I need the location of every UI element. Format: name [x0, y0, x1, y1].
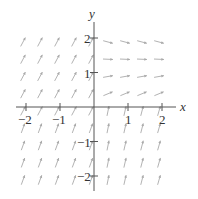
y-tick-label: −2 [77, 169, 91, 184]
x-tick-label: −1 [52, 112, 66, 127]
vector-arrows [21, 38, 164, 185]
x-tick-label: −2 [18, 112, 32, 127]
y-axis-label: y [87, 6, 95, 21]
y-tick-label: −1 [77, 135, 91, 150]
y-tick-label: 2 [84, 31, 91, 46]
vector-field-plot: −2−112−2−112 x y [0, 0, 198, 199]
x-tick-label: 2 [159, 112, 166, 127]
x-axis-label: x [179, 99, 186, 114]
y-tick-label: 1 [84, 66, 91, 81]
x-tick-label: 1 [125, 112, 132, 127]
